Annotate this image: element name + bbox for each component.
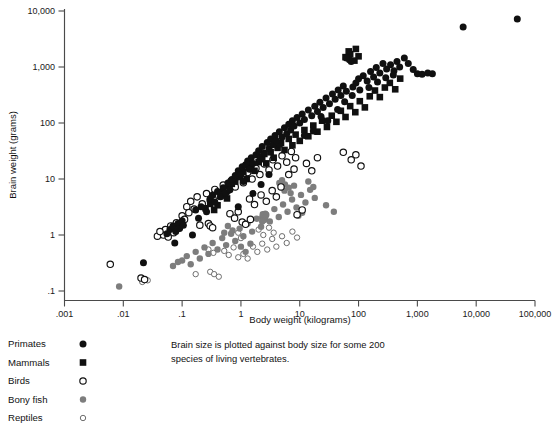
data-point [349,92,356,99]
data-point [249,190,256,197]
x-tick-label: .1 [178,309,186,319]
data-point [255,249,260,254]
data-point [334,106,341,113]
data-point [286,171,292,177]
data-point [320,104,327,111]
data-point [251,201,257,207]
data-point [279,153,285,159]
data-point [265,247,270,252]
data-point [226,186,233,193]
data-point [310,184,316,190]
data-point [337,92,344,99]
data-point [372,87,379,94]
data-point [197,222,203,228]
data-point [353,152,359,158]
data-point [355,53,362,60]
legend-marker-primates [80,341,87,348]
data-point [180,222,187,229]
legend-label-primates: Primates [8,338,46,349]
data-point [362,104,369,111]
data-point [392,86,399,93]
data-point [340,149,346,155]
data-point [258,224,264,230]
data-point [401,54,408,61]
data-point [116,283,122,289]
data-point [247,216,253,222]
data-point [184,253,190,259]
x-tick-label: 1,000 [406,309,429,319]
data-point [291,166,297,172]
x-tick-label: 10,000 [462,309,490,319]
plot-canvas: .11101001,00010,000 .001.01.11101001,000… [0,0,554,433]
legend-label-reptiles: Reptiles [8,412,43,423]
data-point [249,160,256,167]
data-point [280,201,286,207]
data-point [278,184,284,190]
data-point [347,103,354,110]
data-point [366,93,373,100]
data-point [273,194,279,200]
data-point [222,248,227,253]
data-point [284,159,290,165]
data-point [284,209,290,215]
data-point [209,225,215,231]
caption-line-1: Brain size is plotted against body size … [171,339,385,350]
data-point [231,215,237,221]
data-point [223,242,229,248]
data-point [331,209,337,215]
data-point [263,212,269,218]
data-point [242,249,248,255]
data-point [341,98,348,105]
legend-label-mammals: Mammals [8,357,50,368]
data-point [323,202,329,208]
legend-marker-birds [80,378,86,384]
data-point [345,48,352,55]
data-point [263,198,269,204]
data-point [274,244,279,249]
brain-body-weight-scatter-figure: .11101001,00010,000 .001.01.11101001,000… [0,0,554,433]
x-tick-label: 1 [238,309,243,319]
data-point [323,94,330,101]
x-tick-label: 100 [351,309,366,319]
data-point [353,46,360,53]
data-point [258,181,265,188]
x-tick-label: .001 [56,309,74,319]
data-point [203,208,210,215]
data-point [188,198,194,204]
data-point [326,100,333,107]
data-point [240,233,246,239]
data-point [270,154,277,161]
data-point [291,182,297,188]
data-point [256,156,263,163]
data-point [376,70,383,77]
data-point [281,147,288,154]
data-point [294,212,300,218]
data-point [237,171,244,178]
data-point [258,192,264,198]
data-point [240,178,247,185]
data-point [235,203,242,210]
y-tick-label: 1 [50,230,55,240]
data-point [301,116,308,123]
legend-marker-reptiles [80,415,85,420]
data-point [221,229,227,235]
data-point [226,252,231,257]
data-point [374,78,381,85]
x-tick-label: .01 [117,309,130,319]
data-point [225,223,231,229]
data-point [343,54,350,61]
data-point [236,255,241,260]
data-point [140,259,147,266]
data-point [429,70,436,77]
y-tick-label: 10 [45,174,55,184]
data-point [377,94,384,101]
y-tick-label: .1 [47,286,55,296]
data-point [396,64,403,71]
data-point [194,194,200,200]
data-point [266,225,271,230]
data-point [356,86,363,93]
data-point [276,214,282,220]
data-point [318,113,325,120]
data-point [261,232,266,237]
data-point [332,96,339,103]
